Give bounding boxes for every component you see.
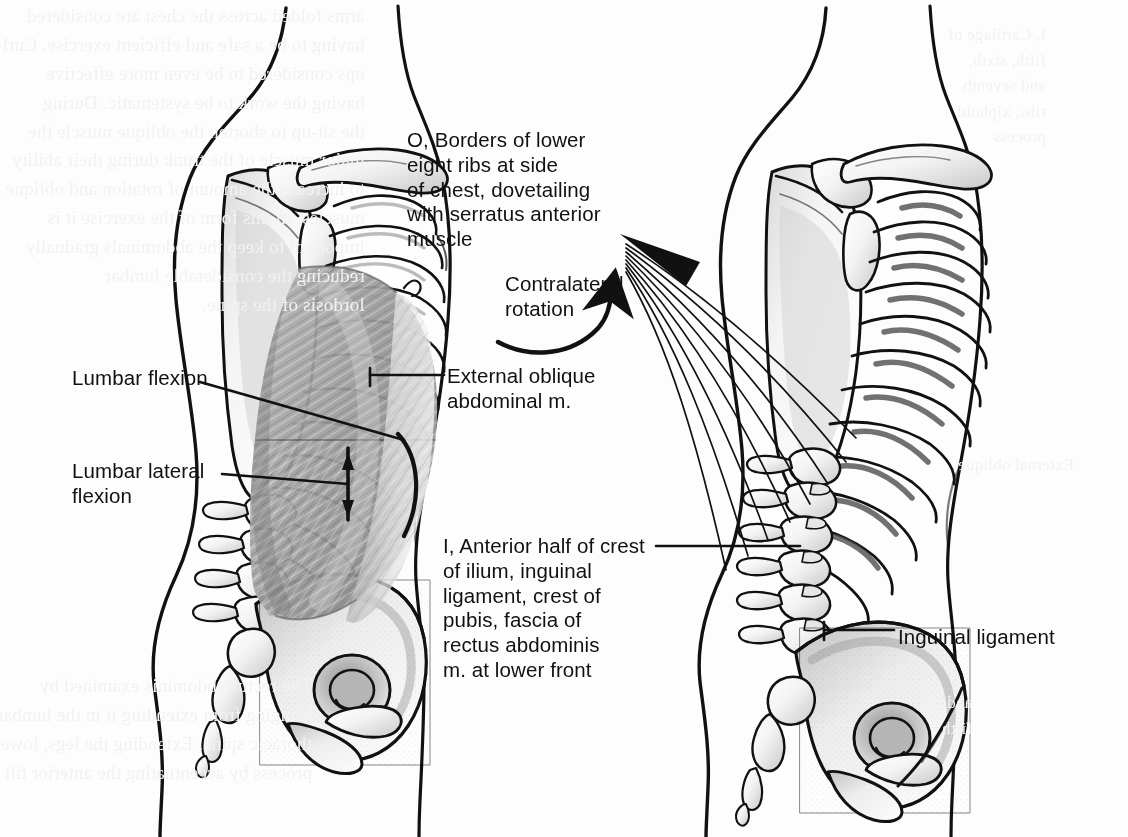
label-contralateral-rotation: Contralateral rotation [505, 272, 624, 322]
label-origin: O, Borders of lower eight ribs at side o… [407, 128, 601, 252]
anatomy-plate [0, 0, 1128, 837]
label-insertion: I, Anterior half of crest of ilium, ingu… [443, 534, 645, 683]
label-external-oblique: External oblique abdominal m. [447, 364, 596, 414]
sacrum-right [768, 677, 815, 725]
sacrum-left [228, 629, 275, 677]
label-lumbar-flexion: Lumbar flexion [72, 366, 208, 391]
label-inguinal-ligament: Inguinal ligament [898, 625, 1055, 650]
label-lumbar-lateral-flexion: Lumbar lateral flexion [72, 459, 204, 509]
